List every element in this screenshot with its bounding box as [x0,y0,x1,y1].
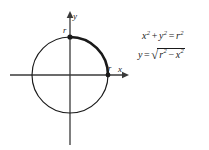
equation2-var-y: y [138,49,143,60]
equations-block: x2+y2=r2 y=√r2−x2 [138,31,209,62]
equation2-equals: = [143,49,152,60]
x-intercept-label: r [108,63,112,73]
x-axis-label: x [117,64,122,74]
equation1-exp-r: 2 [180,29,184,36]
y-intercept-dot [67,34,72,39]
y-intercept-label: r [63,25,67,35]
equation2-exp-x: 2 [180,47,184,54]
figure-canvas: y x r r x2+y2=r2 y=√r2−x2 [0,0,209,150]
radicand: r2−x2 [157,48,185,60]
equation1-equals: = [167,30,176,41]
equation-semicircle-solved-form: y=√r2−x2 [138,48,209,62]
x-axis-arrowhead [122,72,129,79]
y-axis-label: y [72,11,77,21]
circle-diagram: y x r r [0,0,209,150]
equation2-minus: − [167,49,176,60]
radical-expression: √r2−x2 [151,48,185,62]
x-intercept-dot [106,73,111,78]
highlight-arc [70,37,108,75]
equation1-var-x: x [142,30,147,41]
equation1-var-y: y [159,30,164,41]
equation-circle-standard-form: x2+y2=r2 [142,31,209,41]
equation1-plus: + [150,30,159,41]
